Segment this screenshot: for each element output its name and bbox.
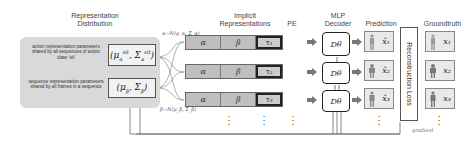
beta-cell: β: [221, 65, 256, 78]
action-representation-text: action representation parameters shared …: [27, 44, 105, 60]
header-groundtruth: Groundtruth: [415, 20, 470, 28]
prediction-image-1: x̂₁: [364, 31, 394, 52]
ellipsis-prediction: ···: [376, 114, 382, 126]
prediction-label: x̂₁: [382, 37, 390, 46]
implicit-representation-row-2: α β τ₂: [185, 64, 283, 79]
sequence-params-box: (μβ, Σβ): [108, 78, 156, 98]
prediction-label: x̂₃: [382, 94, 390, 103]
header-implicit-representations: Implicit Representations: [205, 12, 285, 28]
mlp-decoder-2: Dθ: [322, 62, 350, 84]
ellipsis-tau: ···: [290, 114, 296, 126]
alpha-cell: α: [186, 93, 221, 106]
alpha-cell: α: [186, 65, 221, 78]
arrow-right-icon: [352, 68, 362, 76]
pe-tau-cell: τ₂: [256, 65, 282, 78]
human-figure-icon: [368, 63, 376, 79]
action-params-box: (μαsit, Σαsit): [108, 44, 156, 66]
pe-tau-cell: τ₃: [256, 93, 282, 106]
arrow-right-icon: [307, 96, 317, 104]
human-figure-icon: [429, 34, 437, 50]
human-figure-icon: [368, 91, 376, 107]
sequence-params-label: (μβ, Σβ): [117, 82, 148, 94]
header-mlp-decoder: MLP Decoder: [318, 12, 358, 28]
arrow-right-icon: [307, 38, 317, 46]
mlp-decoder-1: Dθ: [322, 32, 350, 56]
gradient-label: gradient: [412, 127, 434, 133]
prediction-label: x̂₂: [382, 66, 390, 75]
groundtruth-label: x₃: [443, 94, 451, 103]
human-figure-icon: [368, 34, 376, 50]
header-pe: PE: [282, 20, 302, 28]
arrow-right-icon: [352, 96, 362, 104]
prediction-image-2: x̂₂: [364, 60, 394, 81]
action-params-label: (μαsit, Σαsit): [110, 49, 154, 62]
arrow-right-icon: [307, 68, 317, 76]
reconstruction-loss-box: Reconstruction Loss: [400, 27, 418, 121]
human-figure-icon: [429, 63, 437, 79]
ellipsis-beta: ···: [261, 114, 267, 126]
implicit-representation-row-1: α β τ₁: [185, 35, 283, 50]
implicit-representation-row-3: α β τ₃: [185, 92, 283, 107]
groundtruth-label: x₁: [443, 37, 451, 46]
pe-tau-cell: τ₁: [256, 36, 282, 49]
header-representation-distribution: Representation Distribution: [55, 12, 135, 28]
reconstruction-loss-label: Reconstruction Loss: [406, 42, 413, 105]
beta-cell: β: [221, 36, 256, 49]
header-prediction: Prediction: [356, 20, 406, 28]
groundtruth-image-1: x₁: [425, 31, 455, 52]
beta-cell: β: [221, 93, 256, 106]
groundtruth-label: x₂: [443, 66, 451, 75]
ellipsis-alpha: ···: [226, 114, 232, 126]
sequence-representation-text: sequence representation parameters share…: [27, 79, 105, 90]
alpha-cell: α: [186, 36, 221, 49]
mlp-decoder-3: Dθ: [322, 90, 350, 112]
arrow-right-icon: [352, 38, 362, 46]
groundtruth-image-2: x₂: [425, 60, 455, 81]
prediction-image-3: x̂₃: [364, 88, 394, 109]
groundtruth-image-3: x₃: [425, 88, 455, 109]
ellipsis-groundtruth: ···: [436, 114, 442, 126]
human-figure-icon: [429, 91, 437, 107]
